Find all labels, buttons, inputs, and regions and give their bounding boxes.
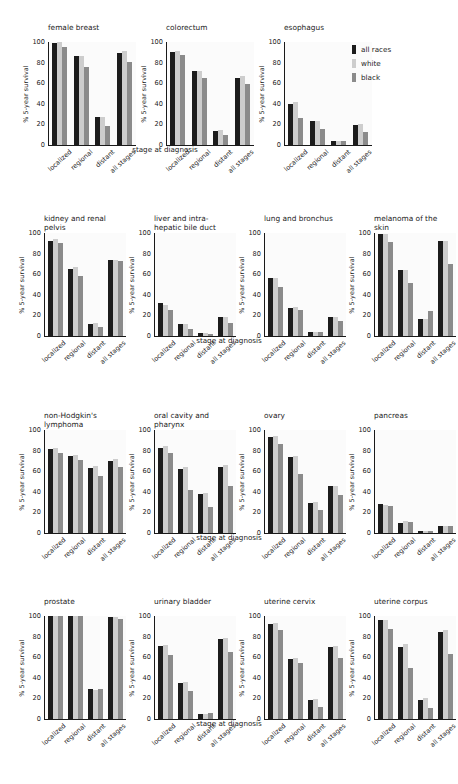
bar-group [68,233,83,336]
y-tick-label: 0 [257,715,261,723]
bar-group [158,233,173,336]
y-tick-label: 80 [253,633,261,641]
y-tick-label: 40 [253,291,261,299]
bar [78,276,83,336]
y-tick-label: 40 [143,291,151,299]
y-tick-label: 100 [358,229,371,237]
bar-group [108,233,123,336]
y-tick-label: 100 [248,612,261,620]
x-axis-ticks: localizedregionaldistantall stages [48,146,136,190]
bar [98,327,103,336]
x-tick-label: regional [69,148,94,172]
y-tick-label: 60 [143,270,151,278]
y-tick-label: 100 [28,426,41,434]
chart-panel: uterine cervix% 5-year survival020406080… [238,598,348,720]
y-tick-label: 80 [253,250,261,258]
y-tick-label: 60 [33,270,41,278]
chart-panel: prostate% 5-year survival020406080100loc… [18,598,128,720]
y-tick-label: 60 [253,270,261,278]
bar-group [398,233,413,336]
y-axis-ticks: 020406080100 [26,233,42,337]
y-tick-label: 0 [367,529,371,537]
bar [78,460,83,533]
x-tick-label: localized [151,722,178,747]
bar-group [95,42,110,145]
bar [448,526,453,533]
y-tick-label: 0 [147,715,151,723]
bar-group [378,616,393,719]
y-tick-label: 60 [143,467,151,475]
bar [118,261,123,336]
bar [228,652,233,719]
plot-area [49,42,135,145]
legend-item: white [352,56,452,70]
bar-group [88,616,103,719]
bar [408,283,413,336]
bar [338,321,343,336]
bar [78,616,83,719]
plot-area [375,233,455,336]
x-tick-label: localized [164,148,191,173]
y-axis-ticks: 020406080100 [246,430,262,534]
bar [208,334,213,336]
bar [318,510,323,533]
bar-group [88,430,103,533]
x-axis-ticks: localizedregionaldistantall stages [264,337,346,381]
legend-swatch-icon [352,59,356,68]
y-tick-label: 40 [33,488,41,496]
y-tick-label: 20 [143,508,151,516]
bar-group [108,616,123,719]
x-tick-label: regional [173,722,198,746]
bar [127,62,132,145]
y-tick-label: 60 [143,653,151,661]
x-tick-label: localized [282,148,309,173]
bar-group [170,42,185,145]
bar [298,474,303,533]
legend: all raceswhiteblack [352,42,452,84]
chart-panel: liver and intra- hepatic bile duct% 5-ye… [128,215,238,337]
plot-area [155,616,235,719]
y-tick-label: 100 [150,38,163,46]
figure-sheet: female breast% 5-year survival0204060801… [0,0,458,784]
panel-row: kidney and renal pelvis% 5-year survival… [0,215,458,345]
bar [388,242,393,336]
plot-area [45,233,125,336]
plot-area [265,430,345,533]
bar-group [331,42,346,145]
x-tick-label: regional [283,536,308,560]
y-axis-ticks: 020406080100 [148,42,164,146]
y-tick-label: 40 [33,291,41,299]
y-tick-label: 80 [33,633,41,641]
x-axis-ticks: localizedregionaldistantall stages [264,534,346,578]
y-tick-label: 60 [363,653,371,661]
x-tick-label: regional [187,148,212,172]
bar-group [268,233,283,336]
bar-group [48,430,63,533]
y-tick-label: 60 [273,79,281,87]
bar [338,658,343,719]
plot-area [155,233,235,336]
bar-group [108,430,123,533]
bar [428,311,433,336]
y-tick-label: 80 [155,59,163,67]
bar-group [308,616,323,719]
x-axis-ticks: localizedregionaldistantall stages [44,720,126,764]
y-tick-label: 80 [33,250,41,258]
y-axis-ticks: 020406080100 [356,616,372,720]
bar [223,135,228,145]
y-tick-label: 100 [358,426,371,434]
y-tick-label: 20 [363,311,371,319]
bar-group [192,42,207,145]
y-tick-label: 40 [253,674,261,682]
bar-group [378,430,393,533]
x-tick-label: localized [261,536,288,561]
bar-group [328,430,343,533]
y-tick-label: 20 [363,694,371,702]
chart-panel: urinary bladder% 5-year survival02040608… [128,598,238,720]
y-tick-label: 100 [138,426,151,434]
y-tick-label: 60 [33,467,41,475]
y-tick-label: 100 [268,38,281,46]
bar-group [198,430,213,533]
bar [448,654,453,719]
bar-group [178,430,193,533]
